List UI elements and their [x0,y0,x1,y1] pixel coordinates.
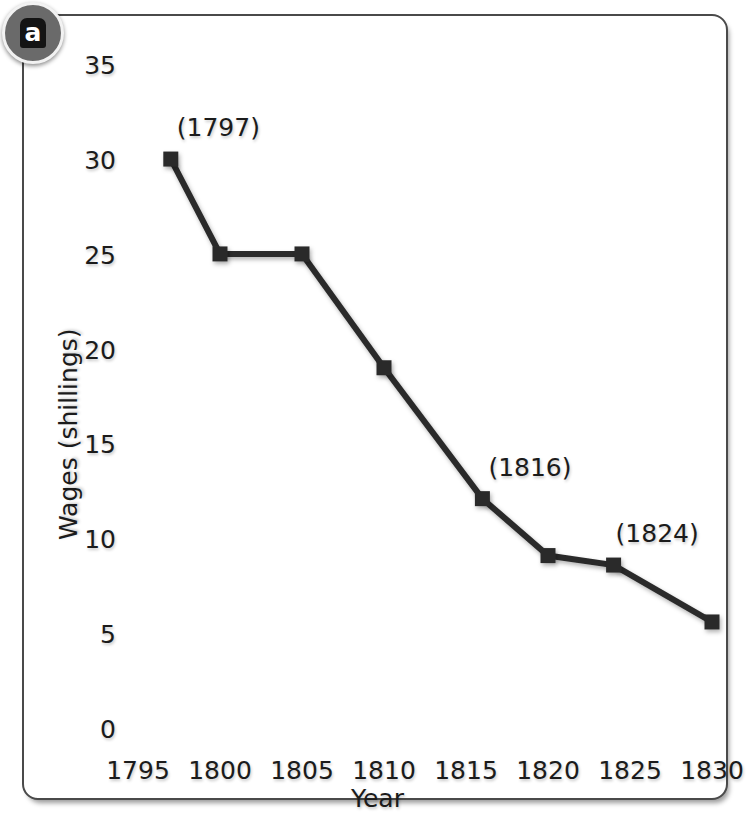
data-point-annotation: (1797) [177,113,260,142]
panel-label-badge: a [2,2,64,64]
x-axis-title: Year [0,784,755,813]
y-axis-tick-label: 30 [56,146,116,175]
x-axis-tick-label: 1830 [662,756,755,785]
data-point-annotation: (1816) [488,453,571,482]
y-axis-tick-label: 25 [56,241,116,270]
y-axis-tick-label: 35 [56,51,116,80]
y-axis-title: Wages (shillings) [54,328,83,540]
y-axis-tick-label: 0 [56,715,116,744]
data-point-annotation: (1824) [616,519,699,548]
panel-label-text: a [20,18,46,48]
figure-frame [22,14,728,800]
y-axis-tick-label: 5 [56,620,116,649]
